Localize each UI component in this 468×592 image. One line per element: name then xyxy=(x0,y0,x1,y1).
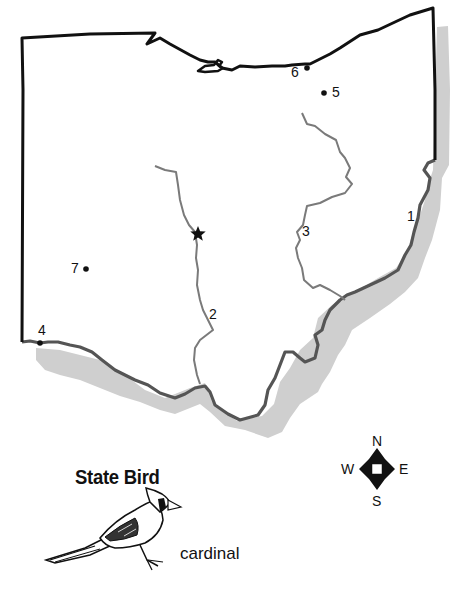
label-5: 5 xyxy=(332,84,340,100)
label-3: 3 xyxy=(302,223,310,239)
city-dot-6 xyxy=(304,65,310,71)
river-2 xyxy=(155,166,213,384)
river-3 xyxy=(296,113,352,300)
compass-n: N xyxy=(372,433,382,449)
label-7: 7 xyxy=(71,260,79,276)
compass-w: W xyxy=(341,461,355,477)
label-4: 4 xyxy=(38,322,46,338)
city-dot-4 xyxy=(37,340,43,346)
state-bird-heading: State Bird xyxy=(75,465,160,489)
cardinal-bird-icon xyxy=(46,488,181,570)
compass-rose: N S W E xyxy=(341,433,408,509)
city-dot-5 xyxy=(321,90,327,96)
state-bird-name: cardinal xyxy=(180,544,240,564)
ohio-map: 6 5 7 4 1 2 3 N S W E xyxy=(0,0,468,592)
compass-e: E xyxy=(399,461,408,477)
compass-s: S xyxy=(372,493,381,509)
label-2: 2 xyxy=(209,306,217,322)
label-1: 1 xyxy=(407,208,415,224)
city-dot-7 xyxy=(83,266,89,272)
label-6: 6 xyxy=(291,64,299,80)
neighbor-shadow xyxy=(36,26,450,438)
